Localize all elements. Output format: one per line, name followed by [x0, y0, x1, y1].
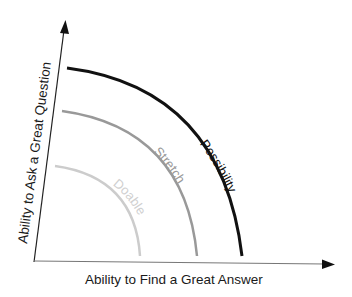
doable-arc — [55, 166, 140, 256]
x-axis-arrowhead-icon — [322, 260, 335, 270]
x-axis-line — [34, 261, 325, 264]
question-answer-diagram: Possibility Stretch Doable Ability to Fi… — [0, 0, 352, 297]
possibility-label-path: Possibility — [197, 137, 240, 195]
stretch-label: Stretch — [151, 144, 189, 186]
possibility-label: Possibility — [197, 137, 240, 195]
y-axis-arrowhead-icon — [60, 20, 69, 34]
stretch-label-path: Stretch — [151, 144, 189, 186]
x-axis-label: Ability to Find a Great Answer — [85, 272, 263, 287]
